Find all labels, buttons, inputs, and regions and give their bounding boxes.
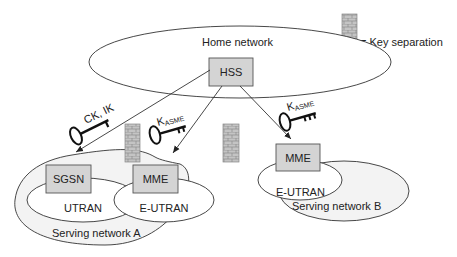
eutran-b-label: E-UTRAN — [276, 186, 325, 198]
key-label-kasme-b: KASME — [285, 94, 315, 114]
serving-network-b-label: Serving network B — [292, 200, 381, 212]
key-separation-wall-a — [125, 124, 140, 162]
home-network: Home network HSS — [89, 26, 391, 98]
key-label-kasme-a: KASME — [155, 109, 185, 129]
eutran-a-label: E-UTRAN — [140, 202, 189, 214]
utran-label: UTRAN — [64, 202, 102, 214]
sgsn-label: SGSN — [53, 173, 84, 185]
key-separation-wall-ab — [223, 124, 239, 162]
key-separation-diagram: = Key separation Home network HSS Servin… — [0, 0, 457, 257]
serving-network-b: Serving network B E-UTRAN MME — [258, 144, 409, 221]
key-label-ck-ik: CK, IK — [82, 101, 116, 126]
mme-a-label: MME — [143, 173, 169, 185]
home-network-label: Home network — [202, 36, 273, 48]
mme-b-label: MME — [285, 152, 311, 164]
serving-network-a: Serving network A UTRAN SGSN E-UTRAN MME — [15, 150, 214, 245]
hss-label: HSS — [220, 66, 243, 78]
serving-network-a-label: Serving network A — [52, 227, 141, 239]
